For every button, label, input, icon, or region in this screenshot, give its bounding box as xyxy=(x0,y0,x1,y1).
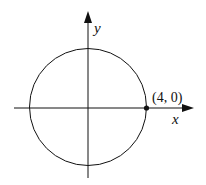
y-axis-arrow-icon xyxy=(84,11,92,23)
y-axis-label: y xyxy=(92,20,101,36)
point-label: (4, 0) xyxy=(152,90,183,106)
x-axis-arrow-icon xyxy=(182,104,194,112)
x-axis-label: x xyxy=(171,111,179,127)
coordinate-diagram: y x (4, 0) xyxy=(0,0,206,185)
point-marker xyxy=(144,105,149,110)
